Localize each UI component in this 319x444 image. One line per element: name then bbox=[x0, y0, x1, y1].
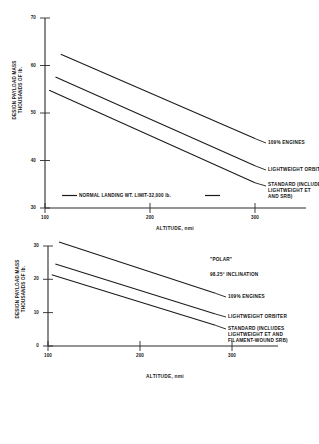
series-line-standard-top bbox=[49, 90, 255, 183]
leader-standard-top bbox=[255, 183, 266, 186]
y-tick-label-30: 30 bbox=[22, 205, 36, 210]
leader-standard-bottom bbox=[215, 325, 226, 329]
series-line-lightweight-orbiter-bottom bbox=[55, 264, 215, 314]
leader-109-engines-bottom bbox=[215, 293, 226, 297]
y-tick-label-40: 40 bbox=[22, 158, 36, 163]
annotation-inclination: 98.25° INCLINATION bbox=[210, 272, 258, 277]
series-label-text: 109% ENGINES bbox=[228, 294, 265, 300]
y-tick-label-50: 50 bbox=[22, 110, 36, 115]
y-tick-label-10: 10 bbox=[25, 310, 39, 315]
y-tick-label-20: 20 bbox=[25, 276, 39, 281]
series-label-text: 109% ENGINES bbox=[268, 140, 305, 146]
x-tick-label-100: 100 bbox=[35, 215, 55, 220]
y-axis-title-line-2: THOUSANDS OF lb. bbox=[18, 25, 24, 155]
annotation-mission-mode: "POLAR" bbox=[210, 257, 232, 262]
chart-top: 70 60 50 40 30 100 200 300 DESIGN PAYLOA… bbox=[0, 0, 319, 234]
y-axis-title-bottom: DESIGN PAYLOAD MASS THOUSANDS OF lb. bbox=[15, 230, 26, 348]
series-label-standard-top: STANDARD (INCLUDES LIGHTWEIGHT ET AND SR… bbox=[268, 182, 319, 201]
series-label-lightweight-orbiter-top: LIGHTWEIGHT ORBITER bbox=[268, 167, 319, 173]
leader-lightweight-orbiter-bottom bbox=[215, 314, 226, 317]
series-line-lightweight-orbiter-top bbox=[56, 77, 256, 166]
series-line-standard-bottom bbox=[52, 275, 216, 326]
series-label-line-3: AND SRB) bbox=[268, 194, 319, 200]
y-tick-label-60: 60 bbox=[22, 63, 36, 68]
series-label-line-3: FILAMENT-WOUND SRB) bbox=[228, 338, 288, 344]
x-axis-title-bottom: ALTITUDE, nmi bbox=[105, 374, 225, 379]
y-tick-label-30: 30 bbox=[25, 243, 39, 248]
x-tick-label-100: 100 bbox=[38, 353, 58, 358]
series-line-109-engines-top bbox=[61, 54, 255, 138]
x-tick-label-200: 200 bbox=[140, 215, 160, 220]
x-tick-label-300: 300 bbox=[245, 215, 265, 220]
x-tick-label-200: 200 bbox=[130, 353, 150, 358]
series-label-109-engines-top: 109% ENGINES bbox=[268, 140, 305, 146]
leader-lightweight-orbiter-top bbox=[255, 166, 266, 170]
series-label-lightweight-orbiter-bottom: LIGHTWEIGHT ORBITER bbox=[228, 314, 287, 320]
y-tick-label-0: 0 bbox=[25, 343, 39, 348]
y-axis-title-top: DESIGN PAYLOAD MASS THOUSANDS OF lb. bbox=[12, 25, 23, 155]
annotation-normal-landing-weight-limit: NORMAL LANDING WT. LIMIT-32,000 lb. bbox=[79, 193, 171, 198]
y-axis-title-line-2: THOUSANDS OF lb. bbox=[21, 230, 27, 348]
series-label-text: LIGHTWEIGHT ORBITER bbox=[228, 314, 287, 320]
chart-bottom: 30 20 10 0 100 200 300 DESIGN PAYLOAD MA… bbox=[0, 230, 319, 444]
series-label-text: LIGHTWEIGHT ORBITER bbox=[268, 167, 319, 173]
series-label-109-engines-bottom: 109% ENGINES bbox=[228, 294, 265, 300]
y-tick-label-70: 70 bbox=[22, 15, 36, 20]
series-line-109-engines-bottom bbox=[59, 242, 215, 293]
leader-109-engines-top bbox=[255, 139, 266, 143]
series-label-standard-bottom: STANDARD (INCLUDES LIGHTWEIGHT ET AND FI… bbox=[228, 326, 288, 345]
x-tick-label-300: 300 bbox=[222, 353, 242, 358]
